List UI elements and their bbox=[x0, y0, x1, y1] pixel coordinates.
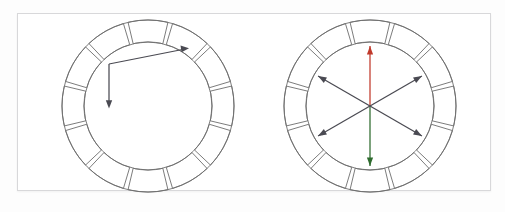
arrowhead-sw bbox=[318, 129, 327, 136]
arrowhead-se bbox=[413, 129, 422, 136]
arrowhead-ne bbox=[413, 76, 422, 83]
left-arrow-to-orange bbox=[109, 49, 185, 64]
left-wheel-segments bbox=[62, 20, 234, 192]
right-wheel-arrows bbox=[318, 46, 422, 166]
wheel-segment-empty bbox=[128, 20, 168, 44]
left-inner-circle bbox=[84, 42, 212, 170]
left-outer-circle bbox=[62, 20, 234, 192]
arrowhead-up-red bbox=[367, 46, 373, 55]
analogous-color-wheel bbox=[50, 8, 246, 204]
left-arrowhead-green bbox=[106, 100, 112, 108]
arrowhead-nw bbox=[318, 76, 327, 83]
wheel-segment-green bbox=[350, 168, 390, 192]
triadic-complementary-color-wheel bbox=[272, 8, 468, 204]
wheel-segment-empty bbox=[128, 168, 168, 192]
arrowhead-down-green bbox=[367, 158, 373, 167]
right-wheel-svg bbox=[272, 8, 468, 204]
left-wheel-arrows bbox=[106, 45, 189, 108]
left-wheel-svg bbox=[50, 8, 246, 204]
wheel-segment-red-orange bbox=[350, 20, 390, 44]
color-wheel-figure bbox=[0, 0, 505, 212]
wheel-segment-empty bbox=[284, 86, 308, 126]
wheel-segment-empty bbox=[62, 86, 86, 126]
wheel-segment-yellow bbox=[210, 86, 234, 126]
wheel-segment-empty bbox=[432, 86, 456, 126]
